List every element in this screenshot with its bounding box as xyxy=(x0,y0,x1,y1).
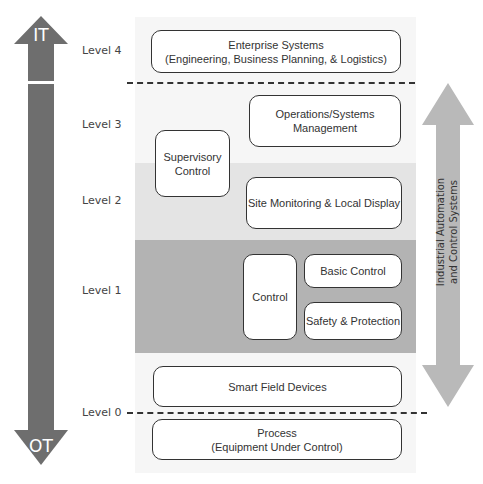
it-ot-arrow xyxy=(0,0,80,484)
safety-protection-label: Safety & Protection xyxy=(306,314,400,328)
operations-line2: Management xyxy=(293,121,357,135)
supervisory-line2: Control xyxy=(175,164,210,178)
operations-line1: Operations/Systems xyxy=(275,107,374,121)
smart-field-devices-box: Smart Field Devices xyxy=(153,366,402,407)
level-4-label: Level 4 xyxy=(82,44,122,57)
supervisory-line1: Supervisory xyxy=(163,150,221,164)
enterprise-systems-box: Enterprise Systems (Engineering, Busines… xyxy=(151,30,401,73)
iacs-label: Industrial Automation and Control System… xyxy=(434,158,462,306)
iacs-line1: Industrial Automation xyxy=(434,158,447,306)
safety-protection-box: Safety & Protection xyxy=(304,302,402,340)
level-0-boundary-line xyxy=(127,412,427,414)
level-1-label: Level 1 xyxy=(82,284,122,297)
basic-control-box: Basic Control xyxy=(304,254,402,288)
basic-control-label: Basic Control xyxy=(320,264,385,278)
supervisory-control-box: Supervisory Control xyxy=(155,130,230,197)
it-boundary-line xyxy=(127,82,415,84)
smart-field-label: Smart Field Devices xyxy=(228,380,326,394)
process-title: Process xyxy=(257,426,297,440)
iacs-line2: and Control Systems xyxy=(447,158,460,306)
level-2-label: Level 2 xyxy=(82,194,122,207)
site-monitoring-label: Site Monitoring & Local Display xyxy=(248,196,400,210)
enterprise-title: Enterprise Systems xyxy=(228,38,323,52)
level-3-label: Level 3 xyxy=(82,118,122,131)
control-box: Control xyxy=(243,254,297,340)
enterprise-subtitle: (Engineering, Business Planning, & Logis… xyxy=(165,52,387,66)
process-box: Process (Equipment Under Control) xyxy=(152,419,402,460)
operations-management-box: Operations/Systems Management xyxy=(249,95,401,147)
site-monitoring-box: Site Monitoring & Local Display xyxy=(246,177,402,229)
it-label: IT xyxy=(28,25,54,45)
ot-label: OT xyxy=(22,436,60,456)
level-0-label: Level 0 xyxy=(82,406,122,419)
process-subtitle: (Equipment Under Control) xyxy=(211,440,342,454)
control-label: Control xyxy=(252,290,287,304)
